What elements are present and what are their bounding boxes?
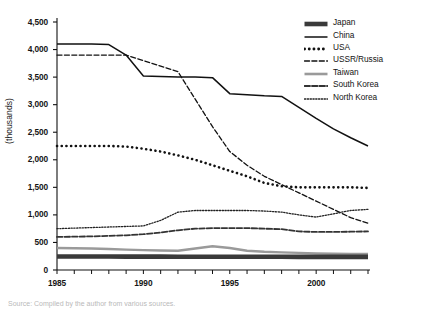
x-tick-label: 1985 (37, 278, 77, 288)
legend-label: USSR/Russia (333, 54, 383, 64)
legend-item-taiwan[interactable]: Taiwan (304, 66, 422, 78)
legend-label: South Korea (333, 79, 379, 89)
legend-item-japan[interactable]: Japan (304, 16, 422, 28)
y-tick-label: 3,000 (12, 99, 48, 109)
source-caption: Source: Compiled by the author from vari… (8, 300, 418, 309)
legend-item-north-korea[interactable]: North Korea (304, 90, 422, 102)
legend-swatch-icon (304, 78, 328, 90)
legend-swatch-icon (304, 29, 328, 41)
y-tick-label: 4,500 (12, 17, 48, 27)
series-line-north-korea (57, 209, 368, 228)
series-line-south-korea (57, 228, 368, 237)
legend-swatch-icon (304, 41, 328, 53)
legend-swatch-icon (304, 91, 328, 103)
series-line-usa (57, 146, 368, 188)
legend-item-south-korea[interactable]: South Korea (304, 78, 422, 90)
legend-label: Taiwan (333, 67, 359, 77)
legend-item-usa[interactable]: USA (304, 41, 422, 53)
y-tick-label: 3,500 (12, 72, 48, 82)
x-tick-label: 1995 (210, 278, 250, 288)
legend-swatch-icon (304, 16, 328, 28)
legend-item-ussr-russia[interactable]: USSR/Russia (304, 53, 422, 65)
legend-label: North Korea (333, 92, 377, 102)
y-tick-label: 1,000 (12, 209, 48, 219)
line-chart: (thousands) JapanChinaUSAUSSR/RussiaTaiw… (0, 0, 422, 310)
y-tick-label: 500 (12, 237, 48, 247)
y-tick-label: 2,500 (12, 127, 48, 137)
y-tick-label: 2,000 (12, 154, 48, 164)
legend-label: China (333, 30, 354, 40)
y-tick-label: 4,000 (12, 44, 48, 54)
x-tick-label: 2000 (296, 278, 336, 288)
legend-swatch-icon (304, 66, 328, 78)
legend-item-china[interactable]: China (304, 28, 422, 40)
x-tick-label: 1990 (123, 278, 163, 288)
legend-label: Japan (333, 17, 355, 27)
legend-label: USA (333, 42, 350, 52)
y-tick-label: 0 (12, 265, 48, 275)
y-tick-label: 1,500 (12, 182, 48, 192)
series-line-taiwan (57, 246, 368, 254)
legend-swatch-icon (304, 53, 328, 65)
chart-legend: JapanChinaUSAUSSR/RussiaTaiwanSouth Kore… (304, 16, 422, 103)
